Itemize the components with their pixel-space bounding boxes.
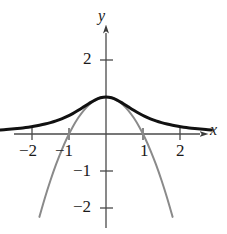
x-tick-label-minus2: −2 xyxy=(19,142,37,159)
y-tick-label-plus2: 2 xyxy=(83,50,92,67)
x-tick-label-plus2: 2 xyxy=(176,142,185,159)
y-axis-label: y xyxy=(98,8,105,24)
x-tick-label-plus1: 1 xyxy=(140,142,149,159)
x-axis-label: x xyxy=(210,122,217,138)
y-tick-label-minus1: −1 xyxy=(73,162,91,179)
x-tick-label-minus1: −1 xyxy=(55,142,73,159)
plot-canvas xyxy=(0,0,227,234)
y-tick-label-minus2: −2 xyxy=(73,198,91,215)
graph-figure: −2 −1 1 2 2 −1 −2 y x xyxy=(0,0,227,234)
